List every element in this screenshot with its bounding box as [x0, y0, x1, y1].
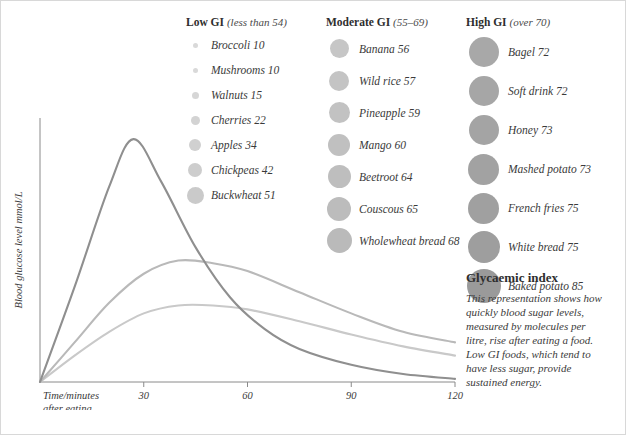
legend-dot-icon	[468, 193, 499, 224]
legend-item: Honey 73	[466, 112, 591, 148]
series-line-moderate-gi	[40, 260, 455, 382]
legend-dot-slot	[326, 71, 352, 91]
legend-dot-icon	[468, 154, 499, 185]
legend-item: Soft drink 72	[466, 73, 591, 109]
legend-dot-icon	[469, 76, 499, 106]
legend-items-high-gi: Bagel 72Soft drink 72Honey 73Mashed pota…	[466, 34, 591, 304]
legend-dot-slot	[186, 43, 204, 48]
x-axis-tick-label: 30	[138, 390, 150, 401]
legend-item: Bagel 72	[466, 34, 591, 70]
legend-dot-slot	[326, 39, 352, 58]
legend-dot-icon	[329, 71, 349, 91]
legend-dot-icon	[469, 37, 499, 67]
legend-dot-icon	[469, 115, 499, 145]
legend-column-high-gi: High GI (over 70) Bagel 72Soft drink 72H…	[466, 16, 591, 307]
legend-dot-slot	[186, 92, 204, 99]
legend-dot-slot	[466, 76, 501, 106]
legend-title-low-gi: Low GI (less than 54)	[186, 16, 287, 28]
legend-title-high-gi: High GI (over 70)	[466, 16, 591, 28]
legend-dot-slot	[466, 231, 501, 263]
legend-item-label: Honey 73	[508, 124, 552, 136]
series-line-high-gi	[40, 139, 455, 382]
legend-title-moderate-gi: Moderate GI (55–69)	[326, 16, 460, 28]
legend-item-label: Broccoli 10	[211, 39, 265, 51]
legend-item-label: Mashed potato 73	[508, 163, 591, 175]
legend-dot-icon	[468, 231, 500, 263]
legend-item: Walnuts 15	[186, 84, 287, 106]
glycaemic-index-line-chart: 306090120Blood glucose level mmol/LTime/…	[0, 110, 470, 410]
legend-item: French fries 75	[466, 190, 591, 226]
legend-dot-slot	[466, 37, 501, 67]
legend-item-label: French fries 75	[508, 202, 578, 214]
chart-svg: 306090120Blood glucose level mmol/LTime/…	[0, 110, 470, 410]
legend-item-label: Walnuts 15	[211, 89, 262, 101]
x-axis-label-line1: Time/minutes	[43, 390, 99, 401]
legend-item: Wild rice 57	[326, 66, 460, 95]
legend-item: White bread 75	[466, 229, 591, 265]
x-axis-tick-label: 60	[242, 390, 253, 401]
y-axis-label: Blood glucose level mmol/L	[13, 191, 24, 308]
legend-item-label: Mushrooms 10	[211, 64, 279, 76]
note-title: Glycaemic index	[466, 270, 606, 286]
legend-item-label: Banana 56	[359, 43, 409, 55]
legend-item-label: Wild rice 57	[359, 75, 415, 87]
legend-dot-icon	[193, 43, 198, 48]
legend-dot-slot	[466, 193, 501, 224]
legend-item-label: White bread 75	[508, 241, 578, 253]
legend-item: Mashed potato 73	[466, 151, 591, 187]
legend-dot-slot	[186, 68, 204, 73]
legend-title-moderate-gi-text: Moderate GI	[326, 16, 390, 28]
legend-title-high-gi-text: High GI	[466, 16, 507, 28]
legend-item-label: Soft drink 72	[508, 85, 567, 97]
legend-item: Banana 56	[326, 34, 460, 63]
legend-dot-icon	[192, 92, 199, 99]
note-body: This representation shows how quickly bl…	[466, 291, 606, 389]
legend-item-label: Bagel 72	[508, 46, 549, 58]
legend-subtitle-high-gi: (over 70)	[509, 16, 550, 28]
legend-dot-icon	[193, 68, 198, 73]
x-axis-tick-label: 120	[447, 390, 464, 401]
legend-dot-icon	[330, 39, 349, 58]
x-axis-tick-label: 90	[346, 390, 357, 401]
legend-dot-slot	[466, 154, 501, 185]
legend-title-low-gi-text: Low GI	[186, 16, 224, 28]
legend-dot-slot	[466, 115, 501, 145]
explanatory-note: Glycaemic index This representation show…	[466, 270, 606, 389]
legend-subtitle-low-gi: (less than 54)	[227, 16, 287, 28]
legend-item: Mushrooms 10	[186, 59, 287, 81]
legend-subtitle-moderate-gi: (55–69)	[393, 16, 428, 28]
legend-item: Broccoli 10	[186, 34, 287, 56]
x-axis-label-line2: after eating	[43, 403, 92, 410]
